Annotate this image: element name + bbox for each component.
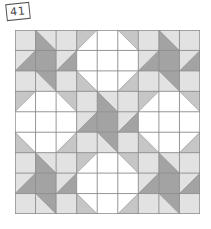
- quilt-cell: [56, 71, 77, 91]
- quilt-cell: [15, 71, 36, 91]
- quilt-cell: [179, 30, 200, 50]
- quilt-cell: [118, 173, 139, 193]
- quilt-cell: [159, 173, 180, 193]
- quilt-cell: [56, 112, 77, 132]
- quilt-cell: [56, 153, 77, 173]
- quilt-cell: [138, 112, 159, 132]
- quilt-cell: [36, 91, 57, 111]
- quilt-cell: [15, 112, 36, 132]
- quilt-cell: [118, 132, 139, 152]
- quilt-cell: [77, 50, 98, 70]
- quilt-block-grid: [15, 30, 200, 214]
- quilt-cell: [77, 173, 98, 193]
- quilt-cell: [36, 50, 57, 70]
- quilt-cell: [138, 30, 159, 50]
- quilt-cell: [138, 194, 159, 214]
- quilt-cell: [56, 30, 77, 50]
- quilt-cell: [15, 30, 36, 50]
- quilt-cell: [97, 71, 118, 91]
- quilt-cell: [97, 153, 118, 173]
- quilt-cell: [15, 153, 36, 173]
- quilt-cell: [118, 50, 139, 70]
- quilt-cell: [97, 112, 118, 132]
- quilt-cell: [36, 173, 57, 193]
- quilt-cell: [36, 112, 57, 132]
- quilt-cell: [138, 153, 159, 173]
- quilt-cell: [159, 91, 180, 111]
- block-number-label: 41: [5, 2, 31, 21]
- quilt-cell: [179, 194, 200, 214]
- quilt-cell: [97, 194, 118, 214]
- quilt-cell: [159, 112, 180, 132]
- quilt-cell: [179, 71, 200, 91]
- quilt-cell: [159, 50, 180, 70]
- quilt-cell: [97, 30, 118, 50]
- quilt-cell: [97, 50, 118, 70]
- quilt-cell: [179, 112, 200, 132]
- quilt-cell: [118, 91, 139, 111]
- quilt-cell: [179, 153, 200, 173]
- quilt-cell: [77, 132, 98, 152]
- quilt-cell: [97, 173, 118, 193]
- quilt-cell: [159, 132, 180, 152]
- quilt-cell: [138, 71, 159, 91]
- quilt-cell: [15, 194, 36, 214]
- quilt-cell: [77, 91, 98, 111]
- quilt-pattern-icon: [15, 30, 200, 214]
- quilt-cell: [36, 132, 57, 152]
- quilt-cell: [56, 194, 77, 214]
